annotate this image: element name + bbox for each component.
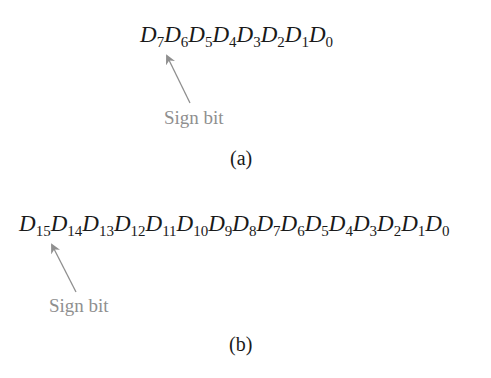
bit-letter: D: [401, 211, 418, 236]
bit-letter: D: [256, 211, 273, 236]
arrows-layer: [0, 0, 491, 378]
bit-index: 7: [273, 223, 281, 239]
bit-D2: D2: [377, 211, 401, 237]
bit-index: 11: [162, 223, 176, 239]
bit-D5: D5: [305, 211, 329, 237]
sign-bit-arrow-b: [52, 245, 76, 292]
bit-letter: D: [353, 211, 370, 236]
bit-index: 5: [321, 223, 329, 239]
bit-letter: D: [177, 211, 194, 236]
bit-letter: D: [114, 211, 131, 236]
bit-sequence-16bit: D15D14D13D12D11D10D9D8D7D6D5D4D3D2D1D0: [19, 211, 449, 237]
sign-bit-arrow-a: [167, 56, 190, 103]
bit-D14: D14: [51, 211, 83, 237]
bit-D15: D15: [19, 211, 51, 237]
sign-bit-label-b: Sign bit: [49, 295, 109, 317]
bit-letter: D: [208, 211, 225, 236]
bit-D6: D6: [281, 211, 305, 237]
bit-D13: D13: [82, 211, 114, 237]
caption-a: (a): [230, 147, 252, 170]
bit-D8: D8: [232, 211, 256, 237]
bit-index: 15: [36, 223, 51, 239]
bit-letter: D: [146, 211, 163, 236]
bit-D12: D12: [114, 211, 146, 237]
bit-D4: D4: [329, 211, 353, 237]
bit-index: 3: [370, 223, 378, 239]
bit-index: 12: [131, 223, 146, 239]
bit-D0: D0: [425, 211, 449, 237]
bit-letter: D: [82, 211, 99, 236]
bit-index: 14: [67, 223, 82, 239]
bit-letter: D: [377, 211, 394, 236]
sign-bit-label-a: Sign bit: [164, 107, 224, 129]
bit-index: 6: [297, 223, 305, 239]
bit-letter: D: [19, 211, 36, 236]
bit-letter: D: [51, 211, 68, 236]
bit-D9: D9: [208, 211, 232, 237]
bit-D1: D1: [401, 211, 425, 237]
bit-index: 0: [442, 223, 450, 239]
bit-letter: D: [329, 211, 346, 236]
bit-D10: D10: [177, 211, 209, 237]
bit-D3: D3: [353, 211, 377, 237]
bit-index: 13: [99, 223, 114, 239]
bit-letter: D: [281, 211, 298, 236]
bit-index: 4: [345, 223, 353, 239]
bit-D11: D11: [146, 211, 177, 237]
bit-letter: D: [425, 211, 442, 236]
bit-index: 10: [193, 223, 208, 239]
caption-b: (b): [229, 333, 252, 356]
bit-letter: D: [305, 211, 322, 236]
bit-letter: D: [232, 211, 249, 236]
bit-D7: D7: [256, 211, 280, 237]
